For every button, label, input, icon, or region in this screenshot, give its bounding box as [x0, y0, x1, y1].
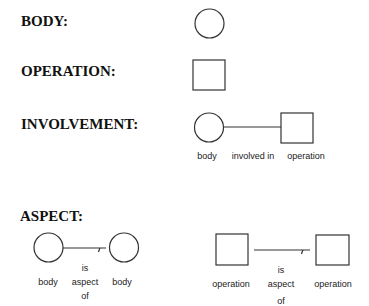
aspect-body-left-label: body	[38, 278, 58, 287]
aspect-operation-right-label: operation	[314, 280, 352, 289]
aspect-body-right-label: body	[112, 278, 132, 287]
aspect-body-circle-right	[110, 233, 139, 262]
aspect-body-relation-mid: aspect	[72, 278, 99, 287]
aspect-operation-relation-mid: aspect	[268, 280, 295, 289]
aspect-operation-relation-top: is	[278, 266, 285, 275]
involvement-relation-label: involved in	[232, 152, 275, 161]
aspect-body-relation-top: is	[82, 264, 89, 273]
aspect-operation-square-right	[316, 235, 349, 265]
operation-symbol-square	[193, 60, 225, 90]
notation-legend-diagram: BODY: OPERATION: INVOLVEMENT: ASPECT: bo…	[0, 0, 369, 306]
body-symbol-circle	[195, 9, 224, 38]
involvement-right-label: operation	[287, 152, 325, 161]
aspect-body-circle-left	[34, 233, 63, 262]
aspect-body-relation-bottom: of	[81, 292, 89, 301]
involvement-operation-square	[281, 113, 313, 143]
involvement-left-label: body	[197, 152, 217, 161]
aspect-body-connector-hook	[99, 248, 101, 252]
aspect-operation-square-left	[216, 234, 248, 265]
involvement-body-circle	[195, 113, 224, 142]
aspect-operation-left-label: operation	[212, 280, 250, 289]
aspect-operation-relation-bottom: of	[277, 297, 285, 306]
aspect-operation-connector-hook	[302, 250, 304, 254]
